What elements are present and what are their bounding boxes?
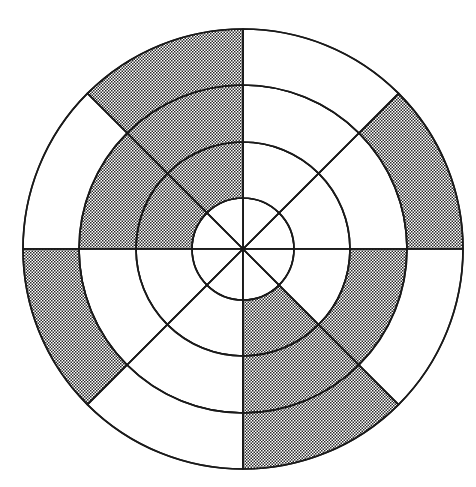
outline-layer <box>23 29 463 469</box>
figure-root <box>0 0 476 487</box>
radial-sector-diagram <box>0 0 476 487</box>
